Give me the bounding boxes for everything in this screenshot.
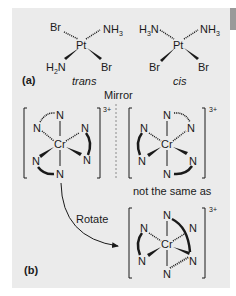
- cr-complex-right: 3+ N N N Cr N N N: [129, 106, 217, 180]
- cis-pt-complex: H3N NH3 Pt Br Br cis: [139, 23, 220, 87]
- charge-label: 3+: [209, 106, 217, 113]
- charge-label: 3+: [103, 106, 111, 113]
- trans-pt-complex: Br NH3 Pt H2N Br trans: [46, 21, 123, 87]
- donor-n: N: [189, 155, 197, 167]
- donor-n: N: [163, 168, 171, 180]
- hashed-bond: [66, 133, 79, 141]
- donor-n: N: [56, 109, 64, 121]
- cis-caption: cis: [173, 75, 187, 87]
- ligand-br: Br: [101, 61, 112, 73]
- ligand-h3n: H2N: [46, 61, 66, 75]
- part-b-label: (b): [24, 264, 38, 276]
- donor-n: N: [138, 155, 146, 167]
- hashed-bond: [184, 30, 198, 39]
- wedge-bond: [173, 147, 188, 155]
- rotate-label: Rotate: [76, 213, 108, 225]
- hashed-bond: [42, 131, 54, 141]
- bracket-left: [129, 108, 132, 178]
- cr-complex-rotated: 3+ N N N Cr N N N: [129, 206, 217, 280]
- chelate-arc: [174, 113, 190, 122]
- wedge-bond: [173, 247, 190, 255]
- ligand-nh3: NH3: [200, 23, 220, 37]
- ligand-br: Br: [198, 61, 209, 73]
- donor-n: N: [81, 122, 89, 134]
- isomer-diagram: Br NH3 Pt H2N Br trans H3N NH3 Pt Br Br …: [0, 0, 236, 296]
- metal-cr: Cr: [54, 138, 66, 150]
- hashed-bond: [64, 32, 78, 39]
- donor-n: N: [33, 122, 41, 134]
- hashed-bond: [170, 257, 189, 268]
- ligand-br: Br: [50, 21, 61, 33]
- metal-pt: Pt: [173, 39, 183, 51]
- metal-cr: Cr: [161, 238, 173, 250]
- trans-caption: trans: [72, 75, 97, 87]
- donor-n: N: [163, 209, 171, 221]
- donor-n: N: [163, 109, 171, 121]
- part-a-label: (a): [22, 74, 36, 86]
- wedge-bond: [147, 247, 161, 257]
- ligand-nh3: NH3: [103, 23, 123, 37]
- chelate-arc: [40, 113, 55, 122]
- bracket-left: [24, 108, 27, 178]
- donor-n: N: [56, 168, 64, 180]
- metal-pt: Pt: [76, 39, 86, 51]
- hashed-bond: [173, 233, 186, 241]
- wedge-bond: [147, 147, 161, 157]
- chelate-arc: [86, 133, 90, 155]
- hashed-bond: [86, 30, 100, 39]
- chelate-arc: [138, 233, 142, 255]
- donor-n: N: [83, 154, 91, 166]
- chelate-arc: [138, 133, 142, 155]
- chelate-arc: [172, 219, 190, 252]
- metal-cr: Cr: [161, 138, 173, 150]
- wedge-bond: [39, 147, 54, 158]
- charge-label: 3+: [209, 206, 217, 213]
- bracket-right: [202, 108, 205, 178]
- hashed-bond: [149, 133, 161, 141]
- not-same-label: not the same as: [133, 185, 212, 197]
- donor-n: N: [163, 268, 171, 280]
- ligand-br: Br: [149, 61, 160, 73]
- wedge-bond: [184, 48, 199, 60]
- ligand-h3n: H3N: [139, 23, 159, 37]
- hashed-bond: [149, 233, 161, 241]
- donor-n: N: [187, 122, 195, 134]
- chelate-arc: [174, 166, 192, 174]
- donor-n: N: [140, 222, 148, 234]
- cr-complex-left: 3+ N N N Cr N N N: [24, 106, 111, 180]
- wedge-bond: [87, 48, 102, 60]
- wedge-bond: [66, 147, 82, 156]
- hashed-bond: [173, 131, 186, 141]
- hashed-bond: [160, 30, 174, 39]
- mirror-label: Mirror: [104, 89, 133, 101]
- donor-n: N: [32, 155, 40, 167]
- chelate-arc: [38, 167, 54, 174]
- donor-n: N: [189, 222, 197, 234]
- donor-n: N: [189, 255, 197, 267]
- donor-n: N: [138, 255, 146, 267]
- bracket-right: [202, 208, 205, 278]
- bracket-right: [97, 108, 100, 178]
- donor-n: N: [140, 122, 148, 134]
- bracket-left: [129, 208, 132, 278]
